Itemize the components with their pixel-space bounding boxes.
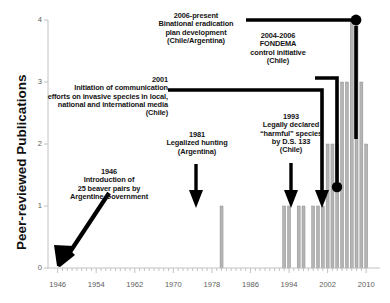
bar <box>283 206 286 268</box>
annotation-2006: 2006-present Binational eradication plan… <box>145 12 247 45</box>
x-tick-label: 1946 <box>38 280 78 289</box>
bar <box>321 206 324 268</box>
bar <box>341 82 344 268</box>
y-tick-label: 3 <box>18 77 42 86</box>
bar <box>312 206 315 268</box>
y-tick-label: 4 <box>18 15 42 24</box>
leader-1993 <box>284 163 298 208</box>
x-tick-label: 2010 <box>346 280 386 289</box>
y-axis-title: Peer-reviewed Publications <box>14 74 29 250</box>
y-tick-label: 2 <box>18 139 42 148</box>
bar <box>360 82 363 268</box>
bar <box>220 206 223 268</box>
bar <box>345 82 348 268</box>
x-tick-label: 1994 <box>269 280 309 289</box>
bar <box>326 144 329 268</box>
bar <box>350 20 353 268</box>
x-tick-label: 1962 <box>115 280 155 289</box>
leader-1981 <box>189 164 203 208</box>
x-tick-label: 1986 <box>230 280 270 289</box>
bar <box>302 206 305 268</box>
bar <box>331 144 334 268</box>
figure-canvas: Peer-reviewed Publications 1946195419621… <box>0 0 390 303</box>
x-tick-label: 1970 <box>153 280 193 289</box>
x-tick-label: 1954 <box>76 280 116 289</box>
x-tick-marks <box>58 268 367 273</box>
annotation-1946: 1946 Introduction of 25 beaver pairs by … <box>46 168 172 201</box>
x-tick-label: 1978 <box>192 280 232 289</box>
annotation-2004: 2004-2006 FONDEMA control initiative (Ch… <box>240 32 316 65</box>
y-tick-label: 0 <box>18 263 42 272</box>
bar <box>297 206 300 268</box>
bar <box>288 206 291 268</box>
annotation-1993: 1993 Legally declared “harmful” species … <box>247 113 335 154</box>
annotation-1981: 1981 Legalized hunting (Argentina) <box>152 131 242 156</box>
annotation-2001: 2001 Initiation of communication efforts… <box>40 76 168 117</box>
bar <box>316 206 319 268</box>
x-tick-label: 2002 <box>308 280 348 289</box>
y-tick-marks <box>44 20 48 268</box>
bar <box>365 144 368 268</box>
leader-1946 <box>54 193 109 267</box>
y-tick-label: 1 <box>18 201 42 210</box>
